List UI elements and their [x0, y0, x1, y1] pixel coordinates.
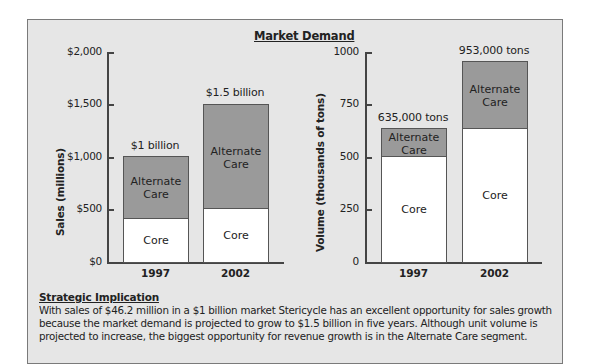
segment-alternate-care: Alternate Care	[124, 157, 188, 219]
tick	[108, 157, 114, 159]
category-label: 1997	[123, 267, 188, 279]
category-label: 1997	[381, 267, 446, 279]
sales-bar-2002: Alternate Care Core	[203, 104, 269, 263]
implication-text: With sales of $46.2 million in a $1 bill…	[39, 304, 559, 343]
segment-core: Core	[463, 128, 527, 262]
bar-total-label: $1 billion	[105, 139, 205, 152]
sales-tick-label: $0	[42, 255, 102, 267]
volume-tick-label: 0	[299, 255, 359, 267]
category-label: 2002	[203, 267, 268, 279]
tick	[366, 52, 372, 54]
sales-bar-1997: Alternate Care Core	[123, 156, 189, 263]
volume-y-axis-label: Volume (thousands of tons)	[314, 93, 326, 252]
tick	[108, 104, 114, 106]
sales-tick-label: $500	[42, 202, 102, 214]
segment-core: Core	[124, 218, 188, 262]
segment-core: Core	[204, 208, 268, 262]
volume-tick-label: 500	[299, 150, 359, 162]
chart-title: Market Demand	[254, 29, 354, 43]
volume-tick-label: 250	[299, 202, 359, 214]
bar-total-label: $1.5 billion	[185, 86, 285, 99]
tick	[366, 104, 372, 106]
segment-alternate-care: Alternate Care	[463, 62, 527, 130]
volume-bar-1997: Alternate Care Core	[381, 128, 447, 263]
volume-bar-2002: Alternate Care Core	[462, 61, 528, 263]
bar-total-label: 635,000 tons	[363, 111, 463, 124]
tick	[108, 209, 114, 211]
tick	[366, 209, 372, 211]
segment-core: Core	[382, 156, 446, 262]
tick	[108, 52, 114, 54]
segment-alternate-care: Alternate Care	[204, 105, 268, 210]
sales-tick-label: $1,500	[42, 97, 102, 109]
volume-tick-label: 1000	[299, 45, 359, 57]
implication-heading: Strategic Implication	[39, 291, 159, 303]
sales-tick-label: $1,000	[42, 150, 102, 162]
volume-tick-label: 750	[299, 97, 359, 109]
bar-total-label: 953,000 tons	[444, 44, 544, 57]
tick	[366, 157, 372, 159]
sales-tick-label: $2,000	[42, 45, 102, 57]
category-label: 2002	[462, 267, 527, 279]
segment-alternate-care: Alternate Care	[382, 129, 446, 158]
